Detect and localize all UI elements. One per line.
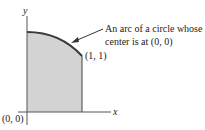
- shaded-region: [27, 32, 82, 112]
- diagram-canvas: y x (0, 0) (1, 1) An arc of a circle who…: [0, 0, 205, 130]
- annotation-line-2: center is at (0, 0): [105, 36, 172, 48]
- x-axis-label: x: [112, 106, 118, 117]
- origin-label: (0, 0): [2, 113, 24, 125]
- y-axis-label: y: [22, 5, 28, 16]
- annotation-arrow-line: [75, 29, 103, 41]
- point-label: (1, 1): [85, 50, 107, 62]
- arrowhead-icon: [71, 37, 79, 43]
- annotation-line-1: An arc of a circle whose: [105, 23, 203, 34]
